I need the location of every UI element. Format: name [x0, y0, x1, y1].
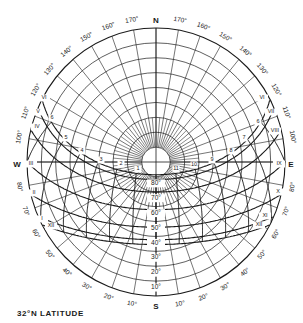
- azimuth-label: 140°: [238, 44, 253, 58]
- azimuth-label: 100°: [289, 130, 298, 145]
- hour-line: [270, 101, 271, 102]
- azimuth-label: 40°: [239, 266, 251, 278]
- azimuth-label: 40°: [61, 266, 73, 278]
- azimuth-label: 110°: [282, 105, 293, 120]
- hour-label: 1: [136, 165, 139, 171]
- azimuth-spoke: [168, 95, 267, 155]
- month-label: X: [276, 188, 280, 194]
- azimuth-label: 100°: [14, 129, 23, 144]
- month-label: XII: [256, 221, 263, 227]
- azimuth-label: 120°: [270, 82, 283, 97]
- azimuth-label: 70°: [281, 205, 291, 217]
- hour-label: 5: [64, 134, 67, 140]
- month-label: XI: [262, 212, 268, 218]
- hour-label: 2: [119, 160, 122, 166]
- latitude-caption: 32°N LATITUDE: [17, 309, 84, 318]
- altitude-label: 80°: [151, 179, 161, 186]
- hour-label: 11: [173, 165, 179, 171]
- hour-label: 9: [210, 156, 213, 162]
- azimuth-spoke: [163, 46, 220, 149]
- hour-label: 6: [50, 114, 53, 120]
- azimuth-label: 150°: [218, 30, 233, 43]
- hour-label: 10: [191, 161, 197, 167]
- azimuth-label: 60°: [31, 228, 42, 240]
- cardinal-label-e: E: [288, 160, 294, 169]
- altitude-label: 30°: [151, 253, 161, 260]
- azimuth-label: 60°: [270, 227, 281, 239]
- azimuth-spoke: [170, 165, 283, 186]
- month-label: VI: [259, 94, 265, 100]
- azimuth-label: 140°: [59, 44, 74, 58]
- altitude-label: 10°: [151, 283, 161, 290]
- azimuth-label: 110°: [19, 105, 30, 120]
- azimuth-label: 10°: [174, 299, 185, 308]
- altitude-label: 40°: [151, 239, 161, 246]
- month-label: III: [29, 160, 34, 166]
- azimuth-spoke: [92, 46, 149, 149]
- hour-label: 6: [256, 118, 259, 124]
- month-label: IX: [276, 160, 282, 166]
- month-label: II: [32, 189, 36, 195]
- altitude-label: 60°: [151, 209, 161, 216]
- azimuth-label: 130°: [256, 62, 270, 77]
- sun-path-diagram: NSWE170°170°160°160°150°150°140°140°130°…: [0, 0, 303, 323]
- azimuth-label: 80°: [16, 181, 25, 192]
- month-label: V: [36, 108, 40, 114]
- azimuth-spoke: [134, 30, 154, 147]
- azimuth-spoke: [44, 95, 143, 155]
- cardinal-label-w: W: [13, 160, 21, 169]
- azimuth-label: 70°: [21, 205, 31, 217]
- azimuth-label: 30°: [81, 281, 93, 292]
- azimuth-label: 130°: [42, 61, 56, 76]
- azimuth-label: 50°: [45, 248, 57, 260]
- azimuth-spoke: [29, 165, 142, 186]
- azimuth-fine-spoke: [166, 130, 186, 151]
- azimuth-fine-spoke: [126, 130, 146, 151]
- azimuth-spoke: [158, 30, 178, 147]
- month-label: XII: [48, 222, 55, 228]
- azimuth-label: 30°: [219, 280, 231, 291]
- hour-label: 7: [242, 134, 245, 140]
- azimuth-label: 170°: [173, 15, 188, 24]
- azimuth-label: 50°: [256, 248, 268, 260]
- altitude-label: 50°: [151, 224, 161, 231]
- altitude-label: 20°: [151, 268, 161, 275]
- altitude-label: 70°: [151, 194, 161, 201]
- hour-label: 4: [80, 147, 83, 153]
- hour-label: 8: [229, 147, 232, 153]
- month-label: VII: [268, 108, 275, 114]
- azimuth-label: 160°: [101, 20, 116, 31]
- azimuth-label: 160°: [196, 20, 211, 31]
- azimuth-label: 150°: [79, 30, 94, 43]
- azimuth-label: 10°: [127, 299, 138, 308]
- azimuth-label: 20°: [103, 292, 115, 302]
- azimuth-label: 20°: [197, 292, 209, 302]
- azimuth-label: 170°: [125, 15, 140, 24]
- month-label: IV: [34, 123, 40, 129]
- hour-label: 3: [99, 156, 102, 162]
- month-label: VIII: [271, 127, 280, 133]
- cardinal-label-n: N: [153, 16, 159, 25]
- month-label: VI: [41, 94, 47, 100]
- azimuth-label: 80°: [287, 181, 296, 192]
- cardinal-label-s: S: [153, 302, 159, 311]
